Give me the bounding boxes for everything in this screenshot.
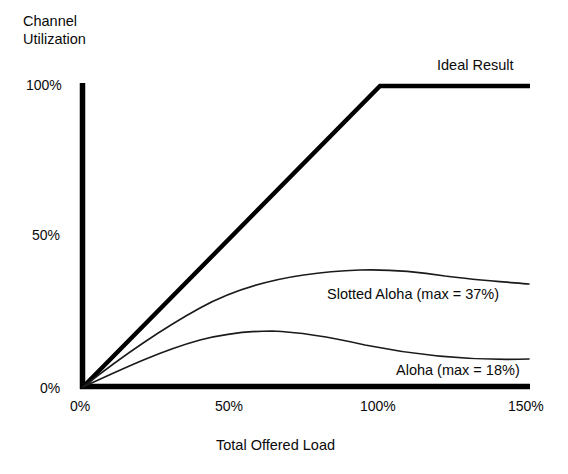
- chart-figure: Channel Utilization 100% 50% 0% 0% 50% 1…: [0, 0, 568, 474]
- x-tick-label-100: 100%: [360, 398, 396, 414]
- series-label-slotted-aloha: Slotted Aloha (max = 37%): [327, 286, 499, 302]
- x-tick-label-0: 0%: [70, 398, 90, 414]
- series-line-ideal-result: [83, 86, 530, 387]
- y-axis-title-line2: Utilization: [23, 30, 86, 48]
- x-tick-label-50: 50%: [215, 398, 243, 414]
- y-tick-label-100: 100%: [26, 77, 62, 93]
- series-label-ideal-result: Ideal Result: [437, 57, 514, 73]
- y-axis-title: Channel Utilization: [23, 12, 86, 48]
- series-label-aloha: Aloha (max = 18%): [396, 362, 520, 378]
- x-axis-title: Total Offered Load: [216, 437, 335, 453]
- y-axis-title-line1: Channel: [23, 12, 86, 30]
- y-tick-label-50: 50%: [32, 227, 60, 243]
- x-tick-label-150: 150%: [508, 398, 544, 414]
- y-tick-label-0: 0%: [40, 380, 60, 396]
